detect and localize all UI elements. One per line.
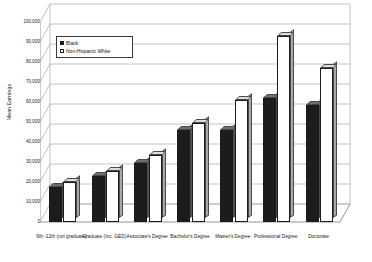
- bar-black: [134, 163, 147, 222]
- bar-non-hispanic-white: [192, 123, 205, 222]
- bar-side-face: [333, 61, 337, 218]
- bar-front-face: [320, 68, 333, 222]
- bar-side-face: [76, 175, 80, 218]
- bar-black: [263, 98, 276, 222]
- y-axis-tick-label: 70,000: [6, 80, 40, 85]
- legend-label: Non-Hispanic White: [66, 48, 110, 54]
- legend-item-black: Black: [60, 39, 129, 47]
- bar-non-hispanic-white: [149, 155, 162, 222]
- bar-front-face: [49, 187, 62, 222]
- bar-black: [49, 187, 62, 222]
- bar-front-face: [134, 163, 147, 222]
- bar-black: [306, 105, 319, 222]
- legend-label: Black: [66, 40, 78, 46]
- bar-front-face: [92, 176, 105, 222]
- bar-black: [220, 130, 233, 222]
- y-axis-tick-label: 40,000: [6, 140, 40, 145]
- y-axis-tick-label: 100,000: [6, 20, 40, 25]
- bar-front-face: [220, 130, 233, 222]
- y-axis-tick-label: 10,000: [6, 200, 40, 205]
- bar-non-hispanic-white: [63, 182, 76, 222]
- bar-front-face: [263, 98, 276, 222]
- y-axis-tick-label: 80,000: [6, 60, 40, 65]
- y-axis-tick-label: 90,000: [6, 40, 40, 45]
- bar-non-hispanic-white: [235, 100, 248, 222]
- bar-front-face: [177, 130, 190, 222]
- y-axis-tick-label: 60,000: [6, 100, 40, 105]
- bar-side-face: [162, 148, 166, 218]
- y-axis-tick-label: 20,000: [6, 180, 40, 185]
- bar-front-face: [192, 123, 205, 222]
- bar-black: [92, 176, 105, 222]
- hollow-square-icon: [60, 49, 64, 53]
- y-axis-tick-label: 0: [6, 220, 40, 225]
- bar-side-face: [119, 164, 123, 218]
- legend-item-non-hispanic-white: Non-Hispanic White: [60, 47, 129, 55]
- bar-side-face: [205, 116, 209, 218]
- bar-front-face: [149, 155, 162, 222]
- y-axis-tick-label: 30,000: [6, 160, 40, 165]
- y-axis-tick-label: 50,000: [6, 120, 40, 125]
- bar-front-face: [63, 182, 76, 222]
- bar-non-hispanic-white: [320, 68, 333, 222]
- bar-front-face: [106, 171, 119, 222]
- x-axis-category-label: Doctorate: [293, 234, 345, 240]
- bar-black: [177, 130, 190, 222]
- bar-non-hispanic-white: [106, 171, 119, 222]
- chart-legend: Black Non-Hispanic White: [56, 36, 133, 58]
- filled-square-icon: [60, 41, 64, 45]
- bar-front-face: [306, 105, 319, 222]
- bar-side-face: [248, 93, 252, 218]
- bar-non-hispanic-white: [277, 36, 290, 222]
- bar-side-face: [290, 29, 294, 218]
- bar-front-face: [277, 36, 290, 222]
- x-axis-category-labels: 9th -12th (not graduate)Graduate (Inc. G…: [40, 232, 372, 262]
- bar-front-face: [235, 100, 248, 222]
- y-axis-tick-labels: 100,00090,00080,00070,00060,00050,00040,…: [4, 0, 40, 262]
- bar-chart: Mean Earnings 100,00090,00080,00070,0006…: [0, 0, 372, 262]
